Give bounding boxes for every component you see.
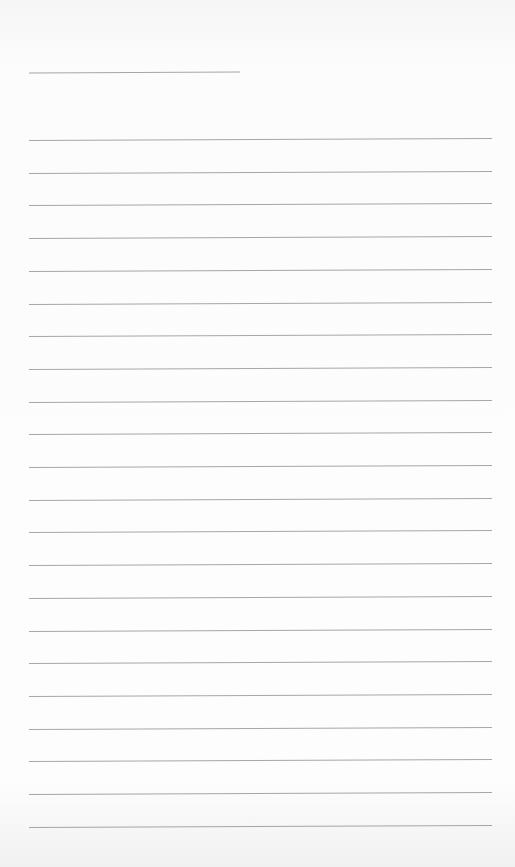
ruled-line (29, 694, 492, 697)
ruled-line (29, 792, 492, 795)
ruled-line (29, 138, 492, 141)
ruled-line (29, 596, 492, 599)
ruled-line (29, 203, 492, 206)
ruled-line (29, 759, 492, 762)
ruled-line (29, 432, 492, 435)
ruled-line (29, 530, 492, 533)
ruled-line (29, 171, 492, 174)
ruled-line (29, 334, 492, 337)
ruled-line (29, 269, 492, 272)
ruled-line (29, 367, 492, 370)
ruled-line (29, 563, 492, 566)
ruled-line (29, 661, 492, 664)
ruled-line (29, 236, 492, 239)
name-line (29, 71, 240, 73)
ruled-line (29, 498, 492, 501)
ruled-line (29, 727, 492, 730)
ruled-line (29, 629, 492, 632)
ruled-line (29, 302, 492, 305)
ruled-line (29, 400, 492, 403)
ruled-line (29, 825, 492, 828)
ruled-line (29, 465, 492, 468)
lined-paper-page (0, 0, 515, 867)
